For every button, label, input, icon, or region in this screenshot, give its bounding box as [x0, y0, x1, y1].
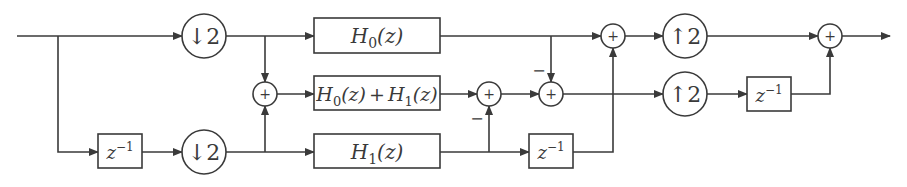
down2-bottom-label: ↓2	[188, 140, 220, 165]
svg-text:H0(z): H0(z)	[350, 24, 404, 51]
down2-top-label: ↓2	[188, 24, 220, 49]
minus-sign-mid2: −	[532, 61, 545, 80]
adder-out: +	[818, 24, 842, 48]
filter-h0-plus-h1: H0(z)+H1(z)	[314, 76, 440, 110]
delay-in-base: z	[105, 142, 116, 163]
svg-text:+: +	[259, 86, 271, 102]
svg-text:H1(z): H1(z)	[350, 140, 404, 167]
wire-input-branch	[58, 36, 98, 152]
wire-delay-to-sumout	[791, 48, 830, 94]
upsampler-bottom: ↑2	[663, 72, 707, 116]
adder-in: +	[253, 82, 277, 106]
adder-mid2: +	[539, 82, 563, 106]
delay-output-block: z−1	[747, 77, 791, 111]
delay-mid-block: z−1	[529, 134, 573, 168]
svg-text:+: +	[483, 86, 495, 102]
downsampler-bottom: ↓2	[182, 130, 226, 174]
svg-text:↑2: ↑2	[669, 24, 701, 49]
svg-text:↑2: ↑2	[669, 82, 701, 107]
svg-text:+: +	[607, 28, 619, 44]
upsampler-top: ↑2	[663, 14, 707, 58]
svg-text:+: +	[545, 86, 557, 102]
wire-delay-to-sumtop	[573, 48, 613, 152]
svg-text:+: +	[824, 28, 836, 44]
delay-in-exp: −1	[116, 140, 134, 154]
filter-bank-diagram: ↓2 ↓2 z−1 + + + + + − − H0(z)	[0, 0, 907, 187]
filter-h0: H0(z)	[314, 18, 440, 53]
delay-input-block: z−1	[98, 134, 142, 168]
adder-mid1: +	[477, 82, 501, 106]
filter-h1: H1(z)	[314, 134, 440, 168]
adder-top: +	[601, 24, 625, 48]
downsampler-top: ↓2	[182, 14, 226, 58]
minus-sign-mid1: −	[470, 109, 483, 128]
